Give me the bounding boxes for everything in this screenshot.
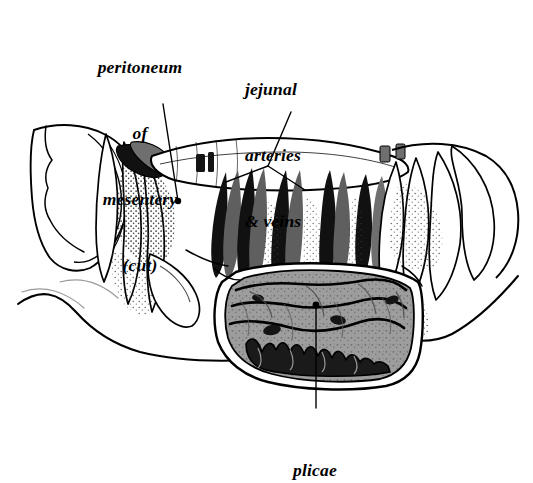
leader-dot-plicae: [313, 302, 320, 309]
label-line: peritoneum: [60, 56, 220, 78]
label-line: arteries: [245, 144, 365, 166]
label-line: (cut): [60, 254, 220, 276]
label-line: jejunal: [245, 78, 365, 100]
label-line: & veins: [245, 210, 365, 232]
label-line: mesentery: [60, 188, 220, 210]
label-line: plicae: [240, 459, 390, 481]
label-line: of: [60, 122, 220, 144]
label-plicae-circulares: plicae circulares: [240, 415, 390, 483]
label-peritoneum-of-mesentery-cut: peritoneum of mesentery (cut): [60, 12, 220, 320]
label-jejunal-arteries-and-veins: jejunal arteries & veins: [245, 34, 365, 276]
anatomical-figure: peritoneum of mesentery (cut) jejunal ar…: [0, 0, 533, 483]
